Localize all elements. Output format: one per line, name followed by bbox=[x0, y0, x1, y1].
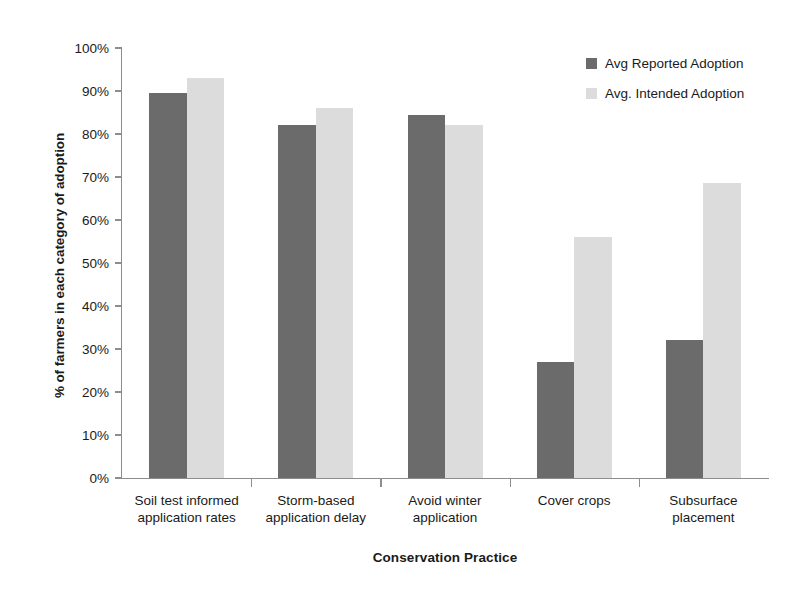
y-axis-tick bbox=[115, 90, 122, 91]
y-axis-tick-label: 70% bbox=[57, 170, 109, 185]
y-axis-tick bbox=[115, 133, 122, 134]
chart-legend: Avg Reported Adoption Avg. Intended Adop… bbox=[586, 48, 744, 108]
y-axis-tick-label: 40% bbox=[57, 299, 109, 314]
y-axis-tick-label: 60% bbox=[57, 213, 109, 228]
legend-label-reported: Avg Reported Adoption bbox=[605, 56, 744, 71]
bar-intended bbox=[445, 125, 483, 478]
y-axis-tick bbox=[115, 262, 122, 263]
y-axis-tick-label: 100% bbox=[57, 41, 109, 56]
bar-intended bbox=[316, 108, 354, 478]
bar-reported bbox=[537, 362, 575, 478]
x-axis-category-label: Storm-basedapplication delay bbox=[251, 492, 380, 526]
legend-item-intended[interactable]: Avg. Intended Adoption bbox=[586, 78, 744, 108]
legend-label-intended: Avg. Intended Adoption bbox=[605, 86, 744, 101]
bar-reported bbox=[666, 340, 704, 478]
legend-swatch-reported-icon bbox=[586, 58, 597, 69]
y-axis-tick bbox=[115, 391, 122, 392]
bar-reported bbox=[278, 125, 316, 478]
y-axis-tick-label: 0% bbox=[57, 471, 109, 486]
legend-item-reported[interactable]: Avg Reported Adoption bbox=[586, 48, 744, 78]
y-axis-tick bbox=[115, 47, 122, 48]
y-axis-tick bbox=[115, 348, 122, 349]
bar-chart: % of farmers in each category of adoptio… bbox=[0, 0, 797, 590]
y-axis-tick bbox=[115, 477, 122, 478]
bar-reported bbox=[408, 115, 446, 478]
y-axis-tick-label: 50% bbox=[57, 256, 109, 271]
y-axis-tick-label: 20% bbox=[57, 385, 109, 400]
x-axis-category-label: Avoid winterapplication bbox=[380, 492, 509, 526]
x-axis-category-label: Cover crops bbox=[510, 492, 639, 509]
y-axis-tick bbox=[115, 219, 122, 220]
bar-intended bbox=[187, 78, 225, 478]
y-axis-tick bbox=[115, 176, 122, 177]
x-axis-line bbox=[121, 478, 769, 479]
x-axis-separator-tick bbox=[380, 479, 381, 487]
y-axis-tick bbox=[115, 305, 122, 306]
y-axis-tick-label: 80% bbox=[57, 127, 109, 142]
x-axis-separator-tick bbox=[251, 479, 252, 487]
bar-intended bbox=[574, 237, 612, 478]
bar-reported bbox=[149, 93, 187, 478]
y-axis-tick-label: 10% bbox=[57, 428, 109, 443]
x-axis-category-label: Subsurfaceplacement bbox=[639, 492, 768, 526]
x-axis-category-label: Soil test informedapplication rates bbox=[122, 492, 251, 526]
x-axis-separator-tick bbox=[639, 479, 640, 487]
x-axis-separator-tick bbox=[510, 479, 511, 487]
x-axis-title: Conservation Practice bbox=[122, 550, 768, 565]
y-axis-tick bbox=[115, 434, 122, 435]
bar-intended bbox=[703, 183, 741, 478]
y-axis-tick-label: 30% bbox=[57, 342, 109, 357]
y-axis-tick-label: 90% bbox=[57, 84, 109, 99]
legend-swatch-intended-icon bbox=[586, 88, 597, 99]
